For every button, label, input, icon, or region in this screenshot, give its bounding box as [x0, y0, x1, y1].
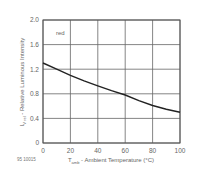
svg-text:0.8: 0.8 — [30, 90, 39, 97]
y-axis-label: IV rel - Relative Luminous Intensity — [19, 38, 27, 127]
x-axis-label: Tamb - Ambient Temperature (°C) — [68, 157, 154, 165]
y-tick-labels: 00.40.81.21.62.0 — [30, 16, 39, 146]
svg-text:80: 80 — [149, 147, 157, 154]
svg-text:1.2: 1.2 — [30, 66, 39, 73]
figure-id: 95 10015 — [17, 157, 36, 162]
svg-text:0.4: 0.4 — [30, 115, 39, 122]
chart: 00.40.81.21.62.0 020406080100 red IV rel… — [0, 0, 197, 172]
series-line-red — [43, 63, 180, 112]
svg-text:60: 60 — [122, 147, 130, 154]
plot-frame — [43, 20, 180, 143]
svg-text:1.6: 1.6 — [30, 41, 39, 48]
svg-text:100: 100 — [175, 147, 186, 154]
x-tick-labels: 020406080100 — [41, 147, 186, 154]
series-label: red — [56, 30, 65, 36]
svg-text:2.0: 2.0 — [30, 16, 39, 23]
svg-text:20: 20 — [67, 147, 75, 154]
svg-text:0: 0 — [41, 147, 45, 154]
grid — [43, 20, 180, 143]
svg-text:40: 40 — [94, 147, 102, 154]
svg-text:0: 0 — [35, 139, 39, 146]
